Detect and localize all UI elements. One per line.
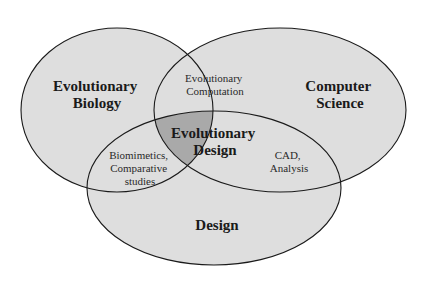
label-cad-analysis: CAD, Analysis [270,149,309,174]
label-evolutionary-computation: Evolutionary Computation [185,72,245,97]
venn-diagram: Evolutionary Biology Computer Science De… [0,0,427,281]
label-design: Design [195,217,239,233]
